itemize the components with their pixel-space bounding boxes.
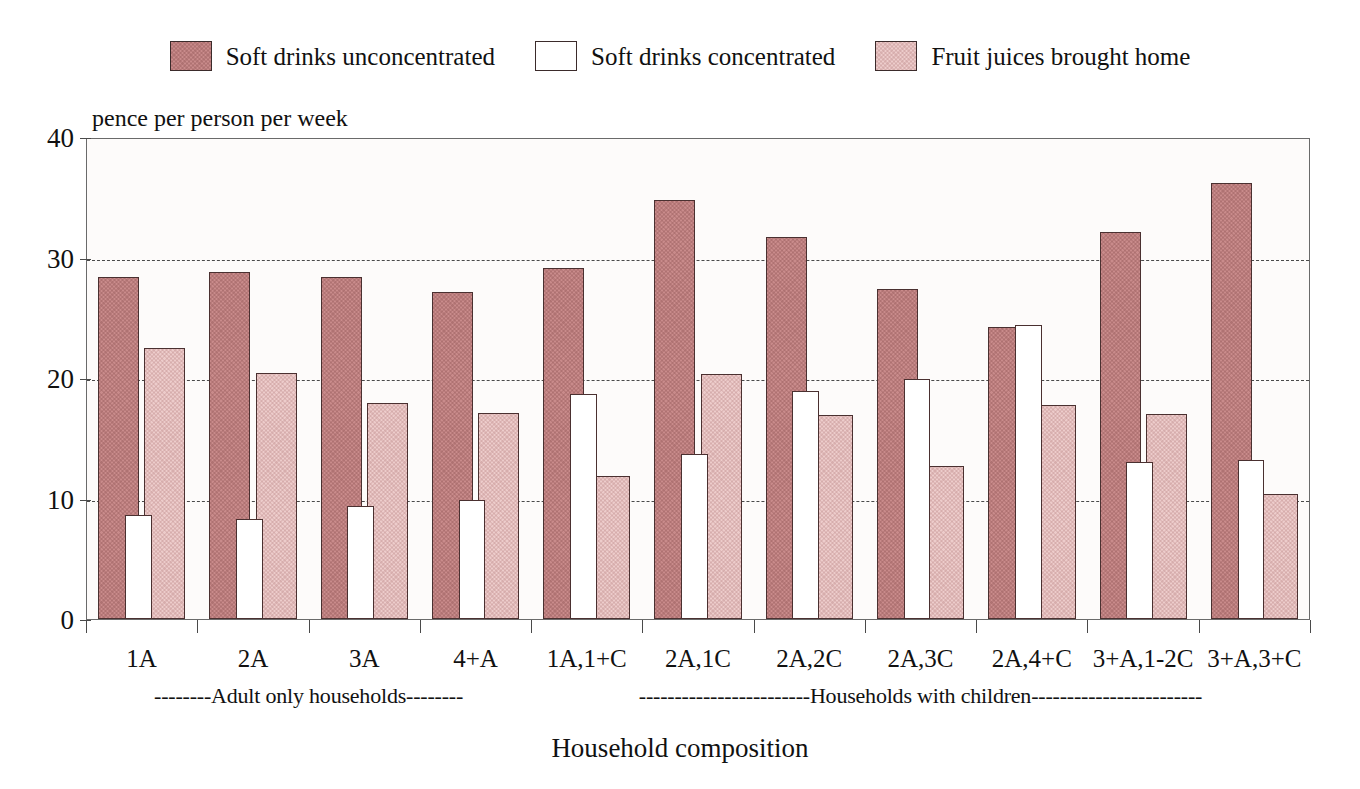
bar-soft-drinks-concentrated <box>125 515 152 619</box>
y-axis-tick-label: 40 <box>18 123 74 154</box>
x-axis-tick-mark <box>1310 620 1311 633</box>
x-axis-tick-label: 2A,1C <box>665 645 731 673</box>
x-axis-tick-mark <box>86 620 87 633</box>
y-axis-tick-label: 10 <box>18 484 74 515</box>
bar-soft-drinks-concentrated <box>1238 460 1265 619</box>
bar-soft-drinks-concentrated <box>681 454 708 619</box>
x-axis-tick-mark <box>865 620 866 633</box>
bar-soft-drinks-concentrated <box>904 379 931 619</box>
chart-plot-area: 010203040 1A2A3A4+A1A,1+C2A,1C2A,2C2A,3C… <box>0 0 1360 789</box>
x-axis-tick-mark <box>420 620 421 633</box>
x-axis-tick-label: 2A,3C <box>888 645 954 673</box>
bar-soft-drinks-concentrated <box>792 391 819 619</box>
x-axis-tick-mark <box>1087 620 1088 633</box>
bar-soft-drinks-concentrated <box>1126 462 1153 619</box>
x-axis-tick-label: 3+A,3+C <box>1207 645 1301 673</box>
bar-soft-drinks-concentrated <box>347 506 374 619</box>
y-axis-tick-label: 0 <box>18 605 74 636</box>
bar-soft-drinks-concentrated <box>236 519 263 619</box>
x-axis-tick-label: 1A,1+C <box>547 645 627 673</box>
x-axis-tick-mark <box>197 620 198 633</box>
bar-soft-drinks-concentrated <box>1015 325 1042 619</box>
bar-soft-drinks-concentrated <box>570 394 597 619</box>
x-axis-group-annotation: --------Adult only households-------- <box>154 683 463 709</box>
y-axis-tick-label: 30 <box>18 243 74 274</box>
x-axis-tick-label: 4+A <box>453 645 498 673</box>
x-axis-tick-mark <box>309 620 310 633</box>
x-axis-tick-mark <box>754 620 755 633</box>
x-axis-tick-label: 1A <box>126 645 157 673</box>
x-axis-tick-mark <box>531 620 532 633</box>
x-axis-title: Household composition <box>0 733 1360 764</box>
x-axis-tick-label: 2A <box>238 645 269 673</box>
x-axis-tick-label: 2A,4+C <box>992 645 1072 673</box>
x-axis-tick-mark <box>1199 620 1200 633</box>
y-axis-tick-label: 20 <box>18 364 74 395</box>
y-axis-tick-mark <box>80 138 91 139</box>
x-axis-group-annotation: ------------------------Households with … <box>639 683 1202 709</box>
y-axis-tick-mark <box>80 500 91 501</box>
x-axis-tick-label: 3A <box>349 645 380 673</box>
y-axis-tick-mark <box>80 259 91 260</box>
x-axis-tick-label: 3+A,1-2C <box>1093 645 1194 673</box>
x-axis-tick-mark <box>642 620 643 633</box>
bar-soft-drinks-concentrated <box>459 500 486 619</box>
x-axis-tick-label: 2A,2C <box>776 645 842 673</box>
x-axis-tick-mark <box>976 620 977 633</box>
y-axis-tick-mark <box>80 379 91 380</box>
